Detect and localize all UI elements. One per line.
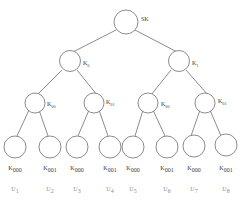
root-node[interactable]: SK — [114, 10, 149, 34]
level3-node-4[interactable]: K01 — [195, 93, 227, 113]
leaf-node-1-key-label: K000 — [8, 165, 21, 173]
leaf-node-2[interactable]: K001 U2 — [39, 136, 61, 194]
edge-k10-to-leaf5 — [135, 110, 143, 136]
edge-k00-to-leaf1 — [17, 110, 29, 136]
level3-node-2-label: K01 — [106, 99, 115, 107]
edge-k10-to-leaf6 — [153, 110, 165, 136]
edge-k1-to-k10 — [151, 70, 171, 95]
root-node-label: SK — [141, 16, 149, 22]
leaf-node-8-circle[interactable] — [215, 134, 237, 156]
leaf-node-8[interactable]: K001 U8 — [215, 134, 237, 194]
leaf-node-1-user-label: U1 — [11, 186, 18, 194]
leaf-node-2-key-label: K001 — [43, 165, 56, 173]
leaf-node-1-circle[interactable] — [4, 136, 26, 158]
leaf-node-6-circle[interactable] — [156, 136, 178, 158]
leaf-node-4-key-label: K001 — [103, 165, 116, 173]
leaf-node-5-user-label: U5 — [129, 186, 136, 194]
level2-node-k1-label: K1 — [192, 60, 198, 68]
leaf-node-4-circle[interactable] — [99, 136, 121, 158]
edge-k11-to-leaf7 — [191, 110, 200, 136]
level3-node-3-circle[interactable] — [138, 93, 158, 113]
edge-k1-to-k11 — [186, 70, 208, 95]
level2-node-k1-circle[interactable] — [169, 51, 190, 72]
leaf-node-7[interactable]: K000 U7 — [183, 135, 205, 194]
edge-k0-to-k01 — [77, 70, 97, 95]
leaf-node-3-user-label: U3 — [73, 186, 80, 194]
key-tree-diagram: SK K0 K1 K00 K01 K00 K01 — [0, 0, 242, 203]
leaf-node-1[interactable]: K000 U1 — [4, 136, 26, 194]
leaf-node-6-key-label: K001 — [160, 165, 173, 173]
level3-node-1[interactable]: K00 — [25, 93, 56, 113]
leaf-node-5-key-label: K000 — [126, 165, 139, 173]
level3-node-2-circle[interactable] — [84, 93, 104, 113]
level3-node-1-label: K00 — [47, 101, 56, 109]
leaf-node-4-user-label: U4 — [106, 186, 113, 194]
leaf-node-8-user-label: U8 — [222, 186, 229, 194]
level2-node-k1[interactable]: K1 — [169, 51, 199, 72]
edge-k01-to-leaf4 — [99, 110, 108, 136]
level3-node-2[interactable]: K01 — [84, 93, 115, 113]
edge-k00-to-leaf2 — [39, 110, 48, 136]
leaf-node-7-circle[interactable] — [183, 135, 205, 157]
leaf-node-3[interactable]: K000 U3 — [66, 136, 88, 194]
level3-node-3-label: K00 — [161, 101, 170, 109]
leaf-node-7-user-label: U7 — [190, 186, 197, 194]
leaf-node-6-user-label: U6 — [163, 186, 170, 194]
edge-k0-to-k00 — [37, 70, 62, 95]
edge-k11-to-leaf8 — [210, 110, 221, 136]
edges-group — [17, 30, 221, 136]
leaf-node-4[interactable]: K001 U4 — [99, 136, 121, 194]
leaf-node-2-user-label: U2 — [46, 186, 53, 194]
leaf-node-2-circle[interactable] — [39, 136, 61, 158]
leaf-node-6[interactable]: K001 U6 — [156, 136, 178, 194]
level2-node-k0[interactable]: K0 — [60, 51, 90, 72]
leaf-node-8-key-label: K001 — [219, 165, 232, 173]
leaf-node-3-key-label: K000 — [70, 165, 83, 173]
level3-node-4-circle[interactable] — [195, 93, 215, 113]
leaf-node-7-key-label: K000 — [187, 165, 200, 173]
level3-node-3[interactable]: K00 — [138, 93, 170, 113]
level2-node-k0-label: K0 — [83, 60, 89, 68]
leaf-node-5[interactable]: K000 U5 — [122, 136, 144, 194]
level2-node-k0-circle[interactable] — [60, 51, 81, 72]
edge-k01-to-leaf3 — [78, 110, 89, 136]
root-node-circle[interactable] — [114, 10, 138, 34]
leaf-node-5-circle[interactable] — [122, 136, 144, 158]
leaf-node-3-circle[interactable] — [66, 136, 88, 158]
edge-root-to-k0 — [71, 30, 116, 53]
level3-node-1-circle[interactable] — [25, 93, 45, 113]
edge-root-to-k1 — [135, 30, 179, 53]
level3-node-4-label: K01 — [218, 98, 227, 106]
